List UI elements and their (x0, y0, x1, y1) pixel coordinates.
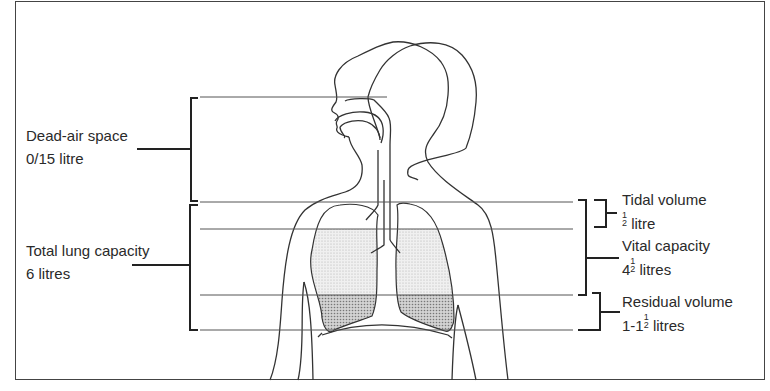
residual-volume-bracket (578, 293, 600, 330)
reference-lines (200, 97, 573, 330)
dead-air-value: 0/15 litre (26, 147, 128, 170)
total-capacity-bracket (190, 205, 198, 330)
total-capacity-value: 6 litres (26, 262, 149, 285)
residual-volume-name: Residual volume (622, 290, 733, 313)
right-brackets (578, 200, 620, 330)
left-brackets (132, 98, 198, 330)
tidal-volume-label: Tidal volume 12 litre (622, 188, 706, 235)
tidal-volume-value: 12 litre (622, 211, 706, 235)
dead-air-bracket (191, 98, 198, 201)
dead-air-name: Dead-air space (26, 124, 128, 147)
tidal-volume-name: Tidal volume (622, 188, 706, 211)
fraction-half: 12 (630, 257, 635, 273)
vital-capacity-bracket (578, 200, 586, 295)
residual-volume-label: Residual volume 1-112 litres (622, 290, 733, 337)
fraction-half: 12 (622, 211, 627, 227)
vital-capacity-label: Vital capacity 412 litres (622, 234, 710, 281)
fraction-half: 12 (644, 313, 649, 329)
vital-capacity-value: 412 litres (622, 257, 710, 281)
vital-capacity-name: Vital capacity (622, 234, 710, 257)
residual-volume-value: 1-112 litres (622, 313, 733, 337)
tidal-volume-bracket (594, 200, 606, 227)
lungs (311, 203, 454, 332)
body-outline (270, 42, 508, 380)
total-capacity-name: Total lung capacity (26, 239, 149, 262)
total-lung-capacity-label: Total lung capacity 6 litres (26, 239, 149, 285)
dead-air-space-label: Dead-air space 0/15 litre (26, 124, 128, 170)
